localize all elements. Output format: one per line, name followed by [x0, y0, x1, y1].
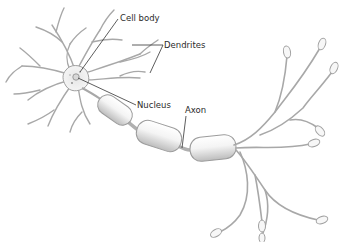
neuron-diagram: Cell body Dendrites Nucleus Axon — [0, 0, 352, 242]
nucleus-shape — [73, 74, 79, 80]
dendrites-leader-bottom — [150, 45, 163, 73]
label-cell-body: Cell body — [120, 14, 160, 23]
label-dendrites: Dendrites — [164, 41, 205, 50]
axon-leader — [182, 116, 186, 148]
label-nucleus: Nucleus — [137, 101, 171, 110]
label-axon: Axon — [185, 106, 206, 115]
neuron-illustration — [0, 0, 352, 242]
